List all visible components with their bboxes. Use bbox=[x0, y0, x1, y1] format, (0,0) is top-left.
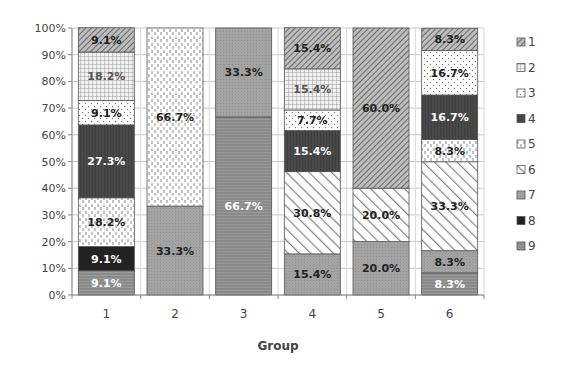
data-label: 30.8% bbox=[293, 207, 331, 220]
legend-label: 2 bbox=[528, 61, 536, 75]
y-tick-label: 40% bbox=[42, 182, 66, 195]
x-axis-title: Group bbox=[257, 339, 299, 353]
legend-item-8: 8 bbox=[517, 214, 536, 228]
legend-item-7: 7 bbox=[517, 188, 536, 202]
data-label: 15.4% bbox=[293, 42, 331, 55]
legend-item-2: 2 bbox=[517, 61, 536, 75]
legend-item-4: 4 bbox=[517, 112, 536, 126]
legend-label: 8 bbox=[528, 214, 536, 228]
y-tick-label: 60% bbox=[42, 129, 66, 142]
legend-label: 4 bbox=[528, 112, 536, 126]
y-tick-label: 90% bbox=[42, 49, 66, 62]
x-tick-label: 6 bbox=[446, 307, 454, 321]
x-tick-label: 2 bbox=[171, 307, 179, 321]
legend-swatch bbox=[517, 89, 525, 97]
legend-swatch bbox=[517, 140, 525, 148]
legend-item-9: 9 bbox=[517, 239, 536, 253]
legend-item-5: 5 bbox=[517, 137, 536, 151]
data-label: 33.3% bbox=[156, 245, 194, 258]
bar-group-2: 33.3%66.7% bbox=[147, 28, 203, 295]
legend-label: 1 bbox=[528, 35, 536, 49]
y-tick-label: 50% bbox=[42, 156, 66, 169]
x-tick-label: 5 bbox=[377, 307, 385, 321]
legend-swatch bbox=[517, 217, 525, 225]
data-label: 33.3% bbox=[431, 200, 469, 213]
y-tick-label: 0% bbox=[49, 289, 66, 302]
data-label: 8.3% bbox=[434, 278, 465, 291]
x-tick-label: 1 bbox=[103, 307, 111, 321]
data-label: 15.4% bbox=[293, 145, 331, 158]
data-label: 18.2% bbox=[87, 216, 125, 229]
bar-group-5: 20.0%20.0%60.0% bbox=[353, 28, 409, 295]
legend-item-6: 6 bbox=[517, 163, 536, 177]
data-label: 15.4% bbox=[293, 83, 331, 96]
data-label: 20.0% bbox=[362, 262, 400, 275]
data-label: 8.3% bbox=[434, 256, 465, 269]
legend-label: 5 bbox=[528, 137, 536, 151]
x-tick-label: 3 bbox=[240, 307, 248, 321]
legend-label: 3 bbox=[528, 86, 536, 100]
data-label: 8.3% bbox=[434, 145, 465, 158]
legend-swatch bbox=[517, 166, 525, 174]
data-label: 15.4% bbox=[293, 268, 331, 281]
data-label: 16.7% bbox=[431, 67, 469, 80]
y-tick-label: 70% bbox=[42, 102, 66, 115]
data-label: 16.7% bbox=[431, 111, 469, 124]
legend-label: 6 bbox=[528, 163, 536, 177]
data-label: 9.1% bbox=[91, 277, 122, 290]
data-label: 60.0% bbox=[362, 102, 400, 115]
data-label: 66.7% bbox=[225, 200, 263, 213]
x-axis-tick-labels: 123456 bbox=[103, 307, 454, 321]
legend-label: 9 bbox=[528, 239, 536, 253]
y-tick-label: 20% bbox=[42, 236, 66, 249]
bar-group-3: 66.7%33.3% bbox=[216, 28, 272, 295]
y-tick-label: 100% bbox=[35, 22, 66, 35]
bar-group-1: 9.1%9.1%18.2%27.3%9.1%18.2%9.1% bbox=[78, 28, 134, 295]
legend-swatch bbox=[517, 38, 525, 46]
data-label: 9.1% bbox=[91, 107, 122, 120]
y-axis-tick-labels: 0%10%20%30%40%50%60%70%80%90%100% bbox=[35, 22, 66, 302]
x-tick-label: 4 bbox=[309, 307, 317, 321]
data-label: 20.0% bbox=[362, 209, 400, 222]
data-label: 27.3% bbox=[87, 155, 125, 168]
stacked-percent-bar-chart: 9.1%9.1%18.2%27.3%9.1%18.2%9.1%33.3%66.7… bbox=[0, 0, 564, 366]
data-label: 33.3% bbox=[225, 66, 263, 79]
legend-swatch bbox=[517, 64, 525, 72]
data-label: 18.2% bbox=[87, 70, 125, 83]
legend-swatch bbox=[517, 115, 525, 123]
data-label: 7.7% bbox=[297, 114, 328, 127]
legend-item-1: 1 bbox=[517, 35, 536, 49]
data-label: 8.3% bbox=[434, 33, 465, 46]
y-tick-label: 10% bbox=[42, 262, 66, 275]
data-label: 9.1% bbox=[91, 34, 122, 47]
bar-group-4: 15.4%30.8%15.4%7.7%15.4%15.4% bbox=[284, 28, 340, 295]
legend-swatch bbox=[517, 191, 525, 199]
legend-label: 7 bbox=[528, 188, 536, 202]
legend: 123456789 bbox=[517, 35, 536, 253]
legend-swatch bbox=[517, 242, 525, 250]
y-tick-label: 80% bbox=[42, 75, 66, 88]
data-label: 66.7% bbox=[156, 111, 194, 124]
legend-item-3: 3 bbox=[517, 86, 536, 100]
y-tick-label: 30% bbox=[42, 209, 66, 222]
data-label: 9.1% bbox=[91, 253, 122, 266]
bar-group-6: 8.3%8.3%33.3%8.3%16.7%16.7%8.3% bbox=[422, 28, 478, 295]
